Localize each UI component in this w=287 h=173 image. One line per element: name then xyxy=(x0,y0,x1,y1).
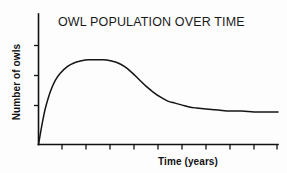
owl-population-chart: OWL POPULATION OVER TIME Time (years) Nu… xyxy=(0,0,287,173)
chart-figure: OWL POPULATION OVER TIME Time (years) Nu… xyxy=(0,0,287,173)
chart-title: OWL POPULATION OVER TIME xyxy=(58,15,245,29)
x-axis-label: Time (years) xyxy=(158,156,218,167)
y-axis-label: Number of owls xyxy=(11,43,22,120)
